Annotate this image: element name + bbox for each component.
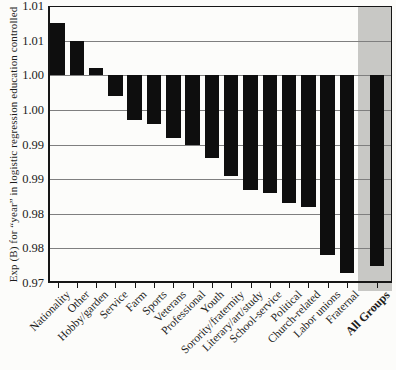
figure: Exp (B) for “year” in logistic regressio…: [0, 0, 396, 370]
bar-other: [70, 41, 85, 76]
x-axis-tick: [173, 283, 174, 288]
bar-all-groups: [370, 75, 385, 265]
y-tick-label: 1.01: [12, 0, 44, 13]
x-axis-tick: [58, 283, 59, 288]
y-tick-label: 0.98: [12, 207, 44, 221]
bar-fraternal: [340, 75, 355, 272]
x-axis-tick: [289, 283, 290, 288]
x-axis-tick: [270, 283, 271, 288]
bar-literary-art-study: [243, 75, 258, 189]
y-tick-label: 1.00: [12, 103, 44, 117]
bar-professional: [185, 75, 200, 144]
x-axis-tick: [154, 283, 155, 288]
y-tick-label: 0.99: [12, 172, 44, 186]
bar-service: [108, 75, 123, 96]
bar-veterans: [166, 75, 181, 137]
x-axis-tick: [377, 283, 378, 288]
x-axis-tick: [115, 283, 116, 288]
bar-political: [282, 75, 297, 203]
bar-school-service: [263, 75, 278, 193]
bar-farm: [127, 75, 142, 120]
x-axis-tick: [193, 283, 194, 288]
bar-sports: [147, 75, 162, 123]
y-tick-label: 0.99: [12, 138, 44, 152]
x-axis-tick: [347, 283, 348, 288]
bar-church-related: [301, 75, 316, 207]
bar-youth: [205, 75, 220, 158]
x-axis-tick: [135, 283, 136, 288]
bar-labor-unions: [320, 75, 335, 255]
x-axis-tick: [231, 283, 232, 288]
x-axis-tick: [77, 283, 78, 288]
x-axis-tick: [251, 283, 252, 288]
y-tick-label: 1.00: [12, 68, 44, 82]
bar-hobby-garden: [89, 68, 104, 75]
y-tick-label: 0.98: [12, 241, 44, 255]
x-axis-tick: [96, 283, 97, 288]
x-axis-tick: [212, 283, 213, 288]
y-tick-label: 0.97: [12, 276, 44, 290]
x-axis-tick: [328, 283, 329, 288]
bar-sorority-fraternity: [224, 75, 239, 175]
x-axis-tick: [308, 283, 309, 288]
y-tick-label: 1.01: [12, 34, 44, 48]
bar-nationality: [50, 23, 65, 75]
